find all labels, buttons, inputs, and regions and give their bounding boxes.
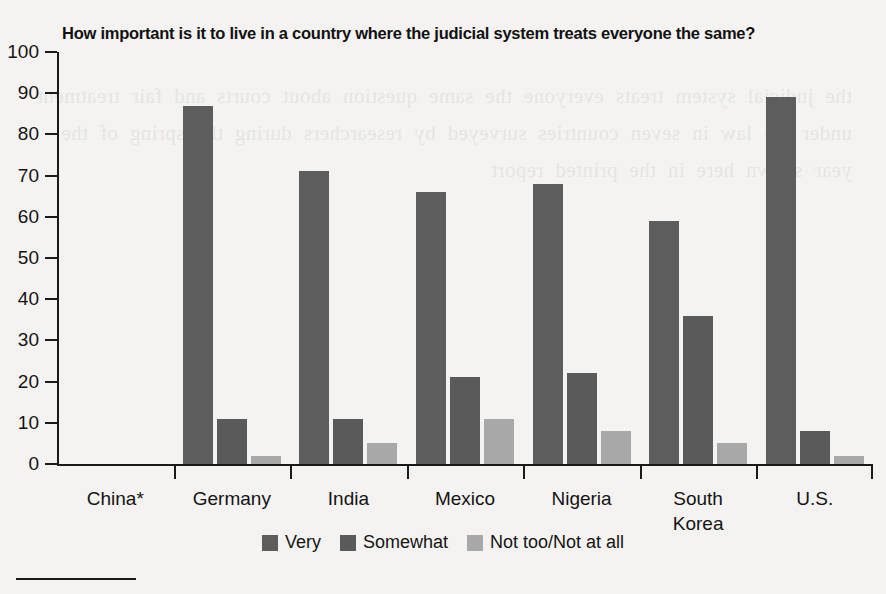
bar [567,373,597,464]
x-axis-category-label: China* [87,486,144,511]
bar-group-bars [57,52,174,464]
y-axis-tick: 100 [45,51,57,53]
x-axis-category-label: South Korea [673,486,724,536]
bar-group: Mexico [407,52,524,464]
x-axis-line [57,464,873,466]
x-axis-category-label: U.S. [796,486,833,511]
y-axis-tick-label: 40 [18,288,39,310]
y-axis-tick-label: 20 [18,371,39,393]
legend-label: Not too/Not at all [490,532,624,553]
bar-group-bars [290,52,407,464]
y-axis-tick: 0 [45,463,57,465]
legend-swatch [262,535,278,551]
x-axis-category-label: India [328,486,369,511]
bar [333,419,363,464]
x-axis-group-divider [174,466,176,479]
x-axis-category-label: Germany [193,486,271,511]
x-axis-group-divider [756,466,758,479]
bar [251,456,281,464]
x-axis-group-divider [523,466,525,479]
y-axis-tick-label: 90 [18,82,39,104]
bar-group: Nigeria [523,52,640,464]
y-axis-tick: 50 [45,257,57,259]
bar [649,221,679,464]
bar-group: South Korea [640,52,757,464]
y-axis-tick-label: 70 [18,165,39,187]
bar [484,419,514,464]
y-axis-tick: 20 [45,381,57,383]
chart-legend: VerySomewhatNot too/Not at all [0,532,886,553]
x-axis-group-divider [871,466,873,479]
bar [367,443,397,464]
y-axis-tick-label: 30 [18,329,39,351]
y-axis-tick-label: 0 [28,453,39,475]
y-axis-tick-label: 100 [7,41,39,63]
bar-group-bars [407,52,524,464]
x-axis-category-label: Mexico [435,486,495,511]
x-axis-group-divider [290,466,292,479]
bar-group: India [290,52,407,464]
x-axis-group-divider [640,466,642,479]
bar [183,106,213,464]
bar [834,456,864,464]
bar [683,316,713,464]
legend-label: Very [285,532,321,553]
y-axis-tick: 30 [45,339,57,341]
legend-swatch [340,535,356,551]
y-axis-tick: 10 [45,422,57,424]
bar [450,377,480,464]
y-axis-tick: 60 [45,216,57,218]
y-axis-tick-label: 80 [18,123,39,145]
y-axis-tick: 40 [45,298,57,300]
bar-group: U.S. [756,52,873,464]
bar [416,192,446,464]
bar [766,97,796,464]
bar-group-bars [523,52,640,464]
chart-title: How important is it to live in a country… [62,24,878,43]
bar-chart: How important is it to live in a country… [0,0,886,594]
x-axis-group-divider [407,466,409,479]
x-axis-category-label: Nigeria [551,486,611,511]
bar-group-bars [756,52,873,464]
y-axis-tick: 80 [45,133,57,135]
footnote-rule [16,578,136,580]
y-axis-tick: 90 [45,92,57,94]
y-axis-tick: 70 [45,175,57,177]
bar-group: China* [57,52,174,464]
bar-group-bars [640,52,757,464]
y-axis-tick-label: 10 [18,412,39,434]
legend-item[interactable]: Not too/Not at all [467,532,624,553]
bar [299,171,329,464]
y-axis-tick-label: 50 [18,247,39,269]
plot-area: 0102030405060708090100 China*GermanyIndi… [57,52,873,466]
y-axis-tick-label: 60 [18,206,39,228]
bar [217,419,247,464]
legend-item[interactable]: Somewhat [340,532,448,553]
bar-group: Germany [174,52,291,464]
bar [800,431,830,464]
legend-item[interactable]: Very [262,532,321,553]
bar [601,431,631,464]
bar-group-bars [174,52,291,464]
bar [533,184,563,464]
legend-label: Somewhat [363,532,448,553]
legend-swatch [467,535,483,551]
bar [717,443,747,464]
